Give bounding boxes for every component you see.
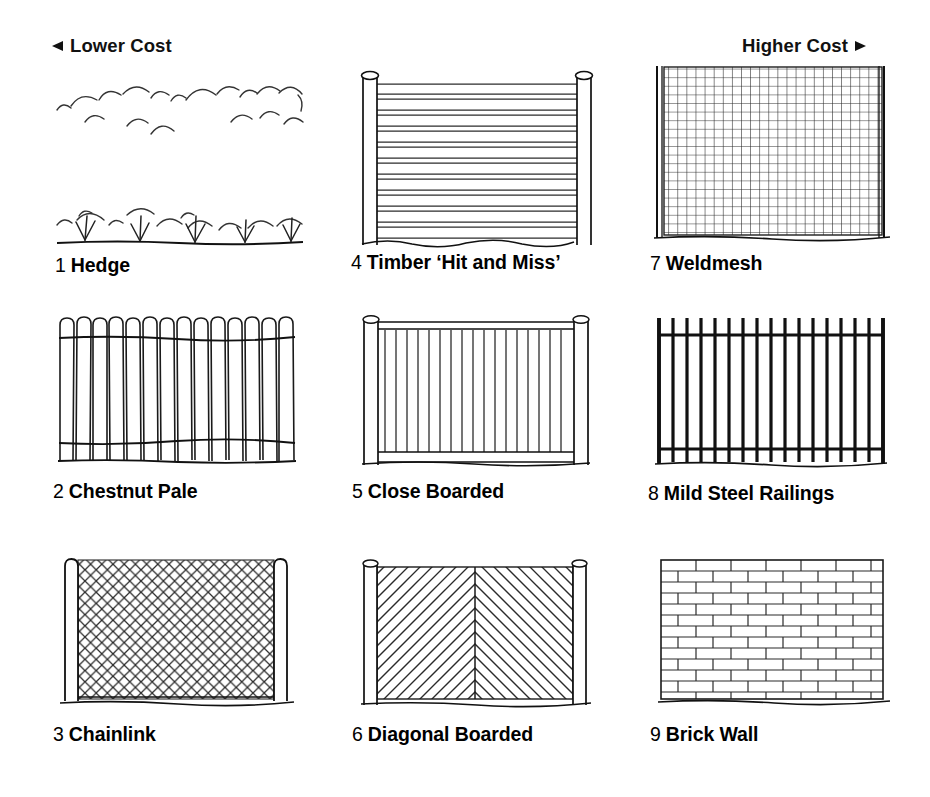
lower-cost-label: Lower Cost bbox=[70, 35, 172, 57]
item-name: Close Boarded bbox=[368, 480, 504, 502]
caption-chestnut-pale: 2Chestnut Pale bbox=[53, 482, 198, 502]
chestnut-pale-illustration bbox=[57, 312, 297, 467]
item-number: 9 bbox=[650, 723, 661, 745]
item-number: 4 bbox=[351, 251, 362, 273]
caption-close-boarded: 5Close Boarded bbox=[352, 482, 504, 502]
fence-item-chainlink: 3Chainlink bbox=[57, 553, 297, 711]
fence-item-chestnut-pale: 2Chestnut Pale bbox=[57, 312, 297, 467]
chainlink-illustration bbox=[57, 553, 297, 711]
caption-mild-steel-railings: 8Mild Steel Railings bbox=[648, 484, 834, 504]
arrow-right-icon bbox=[855, 41, 866, 51]
caption-diagonal-boarded: 6Diagonal Boarded bbox=[352, 725, 533, 745]
item-name: Chainlink bbox=[69, 723, 156, 745]
brick-wall-illustration bbox=[653, 553, 898, 711]
item-number: 7 bbox=[650, 252, 661, 274]
item-number: 1 bbox=[55, 254, 66, 276]
item-name: Brick Wall bbox=[666, 723, 759, 745]
higher-cost-label: Higher Cost bbox=[742, 35, 848, 57]
item-number: 5 bbox=[352, 480, 363, 502]
item-number: 8 bbox=[648, 482, 659, 504]
fence-item-diagonal-boarded: 6Diagonal Boarded bbox=[356, 553, 596, 711]
fence-item-brick-wall: 9Brick Wall bbox=[653, 553, 898, 711]
item-name: Weldmesh bbox=[666, 252, 762, 274]
item-name: Mild Steel Railings bbox=[664, 482, 834, 504]
caption-brick-wall: 9Brick Wall bbox=[650, 725, 758, 745]
caption-timber-hit-and-miss: 4Timber ‘Hit and Miss’ bbox=[351, 253, 561, 273]
fence-item-weldmesh: 7Weldmesh bbox=[650, 60, 895, 245]
diagonal-boarded-illustration bbox=[356, 553, 596, 711]
item-name: Chestnut Pale bbox=[69, 480, 198, 502]
fence-item-mild-steel-railings: 8Mild Steel Railings bbox=[650, 312, 895, 470]
close-boarded-illustration bbox=[356, 310, 596, 470]
item-number: 6 bbox=[352, 723, 363, 745]
item-name: Hedge bbox=[71, 254, 130, 276]
item-number: 3 bbox=[53, 723, 64, 745]
arrow-left-icon bbox=[52, 41, 63, 51]
fence-item-close-boarded: 5Close Boarded bbox=[356, 310, 596, 470]
caption-weldmesh: 7Weldmesh bbox=[650, 254, 762, 274]
item-name: Timber ‘Hit and Miss’ bbox=[367, 251, 561, 273]
caption-hedge: 1Hedge bbox=[55, 256, 130, 276]
higher-cost-indicator: Higher Cost bbox=[742, 35, 866, 57]
item-number: 2 bbox=[53, 480, 64, 502]
timber-hit-and-miss-illustration bbox=[356, 63, 596, 251]
weldmesh-illustration bbox=[650, 60, 895, 245]
fence-cost-chart: Lower Cost Higher Cost bbox=[0, 0, 930, 797]
mild-steel-railings-illustration bbox=[650, 312, 895, 470]
caption-chainlink: 3Chainlink bbox=[53, 725, 156, 745]
lower-cost-indicator: Lower Cost bbox=[52, 35, 172, 57]
hedge-illustration bbox=[55, 78, 305, 250]
fence-item-hedge: 1Hedge bbox=[55, 78, 305, 250]
fence-item-timber-hit-and-miss: 4Timber ‘Hit and Miss’ bbox=[356, 63, 596, 251]
item-name: Diagonal Boarded bbox=[368, 723, 533, 745]
